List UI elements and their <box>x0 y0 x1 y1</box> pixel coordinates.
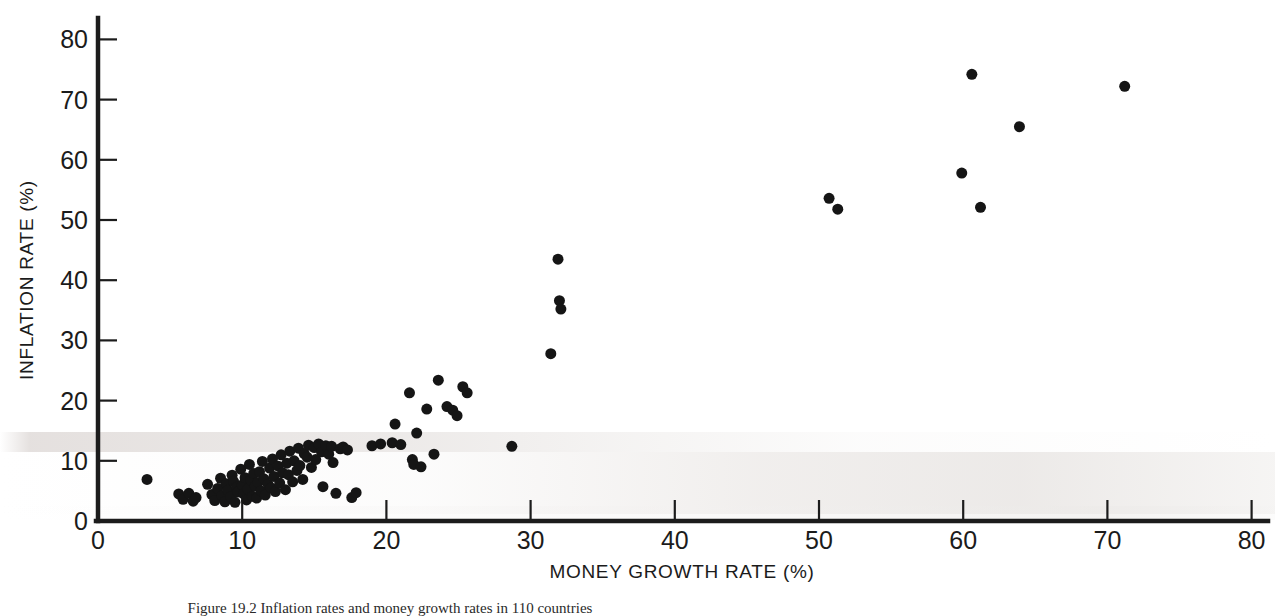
y-tick-label-70: 70 <box>60 86 88 114</box>
data-point <box>229 497 240 508</box>
x-tick-label-50: 50 <box>805 526 833 554</box>
x-axis-title: MONEY GROWTH RATE (%) <box>549 561 814 582</box>
data-point <box>411 428 422 439</box>
data-point <box>416 461 427 472</box>
y-axis-title: INFLATION RATE (%) <box>16 180 37 380</box>
data-point <box>555 304 566 315</box>
data-point <box>421 404 432 415</box>
y-tick-label-0: 0 <box>74 507 88 535</box>
data-point <box>317 481 328 492</box>
data-point <box>297 474 308 485</box>
data-point <box>1014 121 1025 132</box>
y-tick-label-10: 10 <box>60 447 88 475</box>
y-axis-tick-labels: 01020304050607080 <box>60 25 88 535</box>
y-tick-label-80: 80 <box>60 25 88 53</box>
data-point <box>330 488 341 499</box>
x-tick-label-10: 10 <box>228 526 256 554</box>
data-point <box>545 348 556 359</box>
data-point <box>395 439 406 450</box>
figure-caption: Figure 19.2 Inflation rates and money gr… <box>188 600 593 616</box>
x-tick-label-0: 0 <box>91 526 105 554</box>
scatter-plot-canvas: 01020304050607080 01020304050607080 MONE… <box>0 0 1275 616</box>
data-point <box>975 202 986 213</box>
data-point <box>202 479 213 490</box>
scatter-plot-figure: 01020304050607080 01020304050607080 MONE… <box>0 0 1275 616</box>
x-tick-label-80: 80 <box>1238 526 1266 554</box>
x-tick-label-40: 40 <box>661 526 689 554</box>
data-point <box>328 457 339 468</box>
data-point <box>832 204 843 215</box>
data-point <box>294 460 305 471</box>
x-axis-tick-marks <box>242 500 1251 519</box>
x-tick-label-20: 20 <box>372 526 400 554</box>
x-tick-label-30: 30 <box>517 526 545 554</box>
data-point <box>553 254 564 265</box>
data-point <box>956 168 967 179</box>
x-tick-label-70: 70 <box>1093 526 1121 554</box>
data-point <box>506 441 517 452</box>
y-axis-tick-marks <box>100 39 117 460</box>
data-point-group <box>142 69 1131 508</box>
y-tick-label-20: 20 <box>60 387 88 415</box>
data-point <box>824 193 835 204</box>
data-point <box>191 492 202 503</box>
x-tick-label-60: 60 <box>949 526 977 554</box>
data-point <box>433 375 444 386</box>
data-point <box>351 487 362 498</box>
y-tick-label-40: 40 <box>60 266 88 294</box>
y-tick-label-30: 30 <box>60 326 88 354</box>
data-point <box>342 444 353 455</box>
y-tick-label-60: 60 <box>60 146 88 174</box>
data-point <box>428 449 439 460</box>
data-point <box>462 387 473 398</box>
data-point <box>404 387 415 398</box>
data-point <box>1119 81 1130 92</box>
data-point <box>287 476 298 487</box>
y-tick-label-50: 50 <box>60 206 88 234</box>
data-point <box>142 474 153 485</box>
x-axis-tick-labels: 01020304050607080 <box>91 526 1265 554</box>
data-point <box>452 410 463 421</box>
data-point <box>375 438 386 449</box>
data-point <box>390 419 401 430</box>
data-point <box>966 69 977 80</box>
